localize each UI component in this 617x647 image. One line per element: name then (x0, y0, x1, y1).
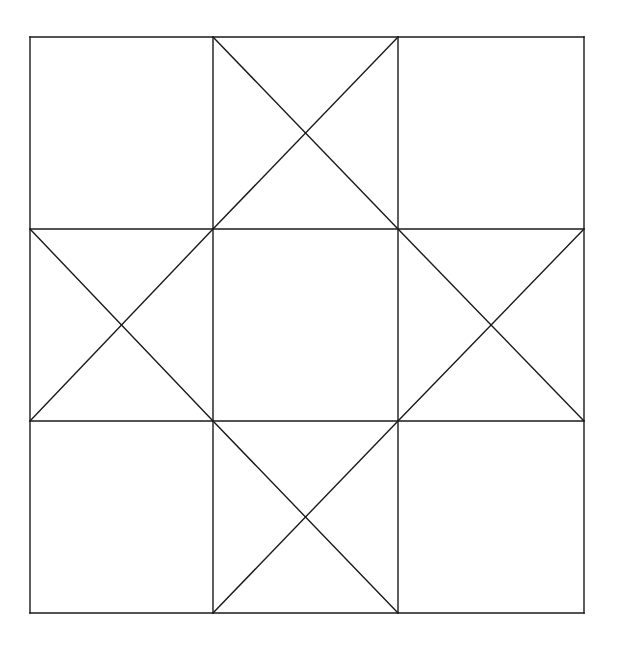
star-grid-diagram (0, 0, 617, 647)
cell-diagonals (30, 37, 584, 613)
grid-lines (30, 37, 584, 613)
